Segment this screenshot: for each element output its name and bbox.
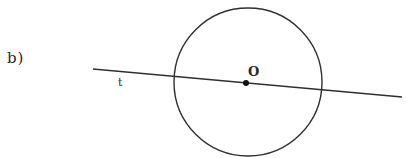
line-label-t: t: [118, 77, 122, 88]
center-label-o: O: [248, 65, 259, 78]
geometry-figure: b) t O: [0, 0, 407, 158]
center-point-o: [243, 80, 249, 86]
figure-canvas: [0, 0, 407, 158]
part-label: b): [7, 51, 24, 66]
